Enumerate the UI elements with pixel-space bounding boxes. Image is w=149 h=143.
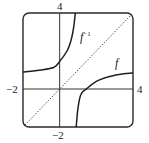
label-f-inverse-exponent: −1 (83, 30, 90, 38)
label-f-inverse: f−1 (80, 28, 91, 43)
curve-f-inverse (23, 13, 75, 72)
y-tick-top: 4 (57, 1, 63, 12)
label-f: f (115, 57, 118, 69)
x-tick-left: −2 (6, 84, 18, 95)
curve-f (76, 73, 133, 127)
function-plot (0, 0, 149, 143)
y-tick-bottom: −2 (52, 130, 64, 141)
x-tick-right: 4 (137, 84, 143, 95)
